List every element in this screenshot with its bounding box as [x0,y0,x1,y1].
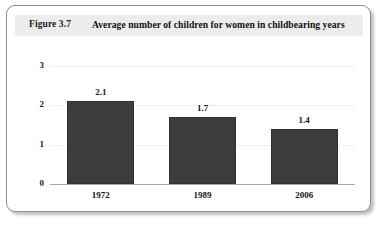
figure-card: Figure 3.7 Average number of children fo… [6,5,371,212]
bar-value-label-1989: 1.7 [173,103,233,113]
gridline [50,66,355,67]
x-axis-line [50,184,355,185]
y-axis-tick-label: 0 [24,178,44,188]
bar-1972 [67,101,134,184]
bar-2006 [271,129,338,184]
x-axis-tick-label-2006: 2006 [274,190,334,200]
y-axis-tick-label: 3 [24,60,44,70]
bar-value-label-1972: 2.1 [71,87,131,97]
x-axis-tick-label-1972: 1972 [71,190,131,200]
y-axis-tick-label: 2 [24,99,44,109]
bar-chart-plot-area: 01232.119721.719891.42006 [7,6,372,213]
y-axis-tick-label: 1 [24,139,44,149]
bar-value-label-2006: 1.4 [274,115,334,125]
bar-1989 [169,117,236,184]
x-axis-tick-label-1989: 1989 [173,190,233,200]
